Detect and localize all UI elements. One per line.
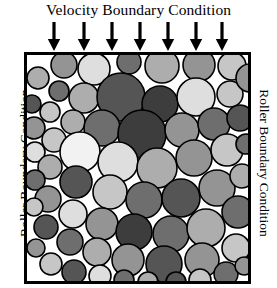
particle-circle [61,110,85,134]
particle-circle [62,260,86,284]
particle-circle [187,209,225,247]
velocity-arrow-row [0,22,277,52]
down-arrow-icon [78,22,90,51]
particle-circle [49,81,69,101]
particle-circle [176,140,212,176]
particle-circle [59,200,87,228]
particle-circle [24,117,45,139]
down-arrow-icon [190,22,202,51]
down-arrow-icon [106,22,118,51]
particle-circle [162,179,200,217]
down-arrow-icon [48,22,60,51]
particle-circle [40,253,62,275]
particle-circle [69,83,99,113]
particle-circle [40,102,60,122]
velocity-arrows-svg [0,22,277,52]
particle-circle [34,215,58,239]
particle-circle [222,196,251,228]
particle-packing-box [24,52,251,284]
particle-circle [126,182,162,218]
down-arrow-icon [134,22,146,51]
down-arrow-icon [162,22,174,51]
particle-circle [227,105,251,131]
particle-circle [145,52,179,83]
particle-circle [230,164,251,188]
particle-circle [25,198,43,216]
down-arrow-icon [216,22,228,51]
particle-circle [93,175,127,209]
granular-packing-figure: Velocity Boundary Condition Roller Bound… [0,0,277,288]
right-roller-boundary-condition-label: Roller Boundary Condition [256,76,272,251]
particle-assembly-svg [24,52,251,284]
particle-circle [183,52,215,81]
particle-circle [60,166,92,198]
particle-circle [83,238,111,266]
velocity-boundary-condition-label: Velocity Boundary Condition [0,1,277,19]
particle-circle [27,67,49,89]
particle-circle [117,52,141,74]
particle-circle [51,52,77,78]
particle-circle [86,208,118,240]
particle-circle [27,239,45,257]
particle-circle [57,229,83,255]
